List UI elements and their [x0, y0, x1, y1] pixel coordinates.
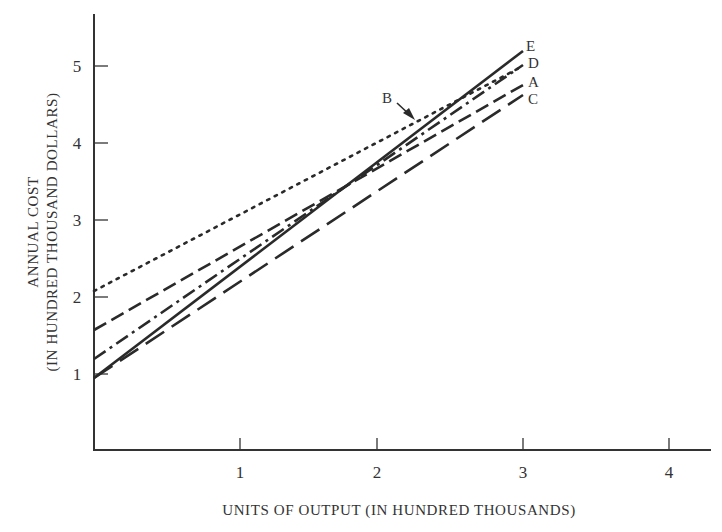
y-axis-title-line1: ANNUAL COST — [25, 176, 41, 287]
series-c-line — [94, 95, 523, 378]
b-annotation: B — [382, 90, 415, 120]
x-tick-label: 1 — [236, 463, 245, 482]
series-d-line — [94, 65, 523, 359]
y-tick-label: 1 — [73, 365, 82, 384]
series-a-line — [94, 85, 523, 330]
series-label-a: A — [528, 74, 539, 90]
x-axis-title: UNITS OF OUTPUT (IN HUNDRED THOUSANDS) — [222, 502, 576, 519]
y-tick-label: 4 — [73, 134, 82, 153]
x-ticks — [240, 438, 669, 450]
series-lines — [94, 51, 523, 378]
b-annotation-label: B — [382, 90, 392, 106]
cost-chart: 1 2 3 4 5 1 2 3 4 UNITS OF OUTPUT (IN HU… — [0, 0, 722, 532]
series-labels: E D A C — [526, 38, 539, 107]
series-e-line — [94, 51, 523, 378]
series-label-c: C — [528, 91, 538, 107]
series-label-d: D — [528, 55, 539, 71]
y-axis-title-line2: (IN HUNDRED THOUSAND DOLLARS) — [44, 92, 61, 371]
x-tick-label: 3 — [519, 463, 528, 482]
x-tick-label: 2 — [373, 463, 382, 482]
y-tick-label: 2 — [73, 288, 82, 307]
x-tick-label: 4 — [665, 463, 674, 482]
series-label-e: E — [526, 38, 535, 54]
y-tick-labels: 1 2 3 4 5 — [73, 57, 82, 384]
y-tick-label: 5 — [73, 57, 82, 76]
x-tick-labels: 1 2 3 4 — [236, 463, 674, 482]
y-tick-label: 3 — [73, 211, 82, 230]
